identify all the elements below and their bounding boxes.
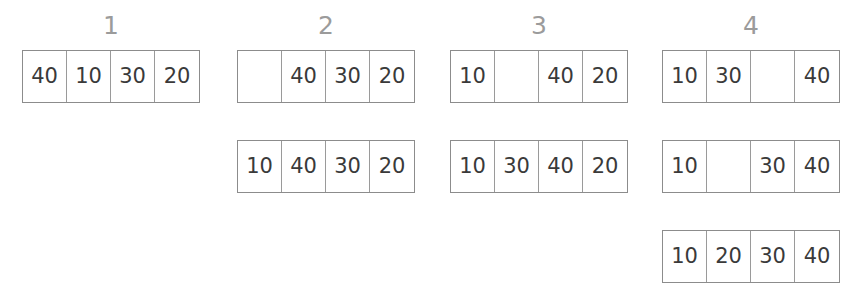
array-cell: 30 (495, 141, 539, 192)
array-cell: 40 (539, 141, 583, 192)
array-cell: 10 (67, 51, 111, 102)
array-cell: 20 (370, 141, 414, 192)
array-cell: 40 (282, 141, 326, 192)
array-cell: 40 (795, 51, 839, 102)
array-cell: 30 (751, 141, 795, 192)
array-cell: 40 (795, 141, 839, 192)
array-cell-empty (707, 141, 751, 192)
array-cell: 40 (23, 51, 67, 102)
sort-step-column-1: 140103020 (22, 0, 200, 301)
array-cell: 10 (663, 141, 707, 192)
array-row: 40103020 (22, 50, 200, 103)
array-cell: 30 (326, 51, 370, 102)
array-cell: 10 (663, 51, 707, 102)
array-row: 103040 (662, 140, 840, 193)
array-cell: 20 (707, 231, 751, 282)
array-cell: 10 (238, 141, 282, 192)
array-cell: 30 (326, 141, 370, 192)
column-label: 2 (237, 12, 415, 40)
sort-step-column-4: 410304010304010203040 (662, 0, 840, 301)
array-cell: 10 (451, 51, 495, 102)
array-cell-empty (238, 51, 282, 102)
array-cell: 20 (370, 51, 414, 102)
array-cell: 10 (451, 141, 495, 192)
array-row: 104020 (450, 50, 628, 103)
sort-step-column-2: 240302010403020 (237, 0, 415, 301)
array-cell: 30 (111, 51, 155, 102)
array-cell-empty (495, 51, 539, 102)
array-cell: 10 (663, 231, 707, 282)
array-row: 10403020 (237, 140, 415, 193)
array-row: 103040 (662, 50, 840, 103)
column-label: 1 (22, 12, 200, 40)
array-cell: 40 (795, 231, 839, 282)
array-cell: 20 (155, 51, 199, 102)
array-row: 403020 (237, 50, 415, 103)
array-cell: 30 (751, 231, 795, 282)
array-cell: 20 (583, 51, 627, 102)
array-cell: 20 (583, 141, 627, 192)
sort-step-column-3: 310402010304020 (450, 0, 628, 301)
array-cell: 40 (539, 51, 583, 102)
column-label: 3 (450, 12, 628, 40)
array-cell: 30 (707, 51, 751, 102)
array-row: 10203040 (662, 230, 840, 283)
array-cell: 40 (282, 51, 326, 102)
array-row: 10304020 (450, 140, 628, 193)
column-label: 4 (662, 12, 840, 40)
array-cell-empty (751, 51, 795, 102)
insertion-sort-diagram: 1401030202403020104030203104020103040204… (0, 0, 865, 301)
